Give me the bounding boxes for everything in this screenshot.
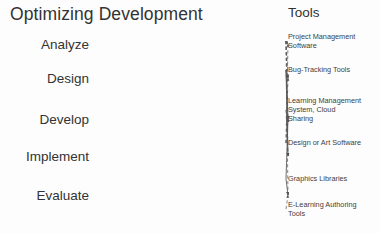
tool-label-line: Software (288, 41, 380, 50)
tool-label-line: System, Cloud (288, 105, 380, 114)
tool-label-line: E-Learning Authoring (288, 200, 380, 209)
tool-label-line: Design or Art Software (288, 138, 380, 147)
page-title: Optimizing Development (10, 4, 203, 25)
tool-label-learning-management-system: Learning ManagementSystem, CloudSharing (288, 96, 380, 124)
tool-label-line: Graphics Libraries (288, 174, 380, 183)
link-design-or-art-software-to-analyze (286, 44, 288, 143)
tools-column-header: Tools (288, 5, 320, 20)
link-graphics-libraries-to-develop (286, 119, 288, 179)
tool-label-project-management-software: Project ManagementSoftware (288, 32, 380, 50)
tool-label-line: Learning Management (288, 96, 380, 105)
phase-label-evaluate: Evaluate (36, 188, 89, 203)
optimizing-development-diagram: Optimizing Development Tools AnalyzeDesi… (0, 0, 380, 233)
tool-label-line: Project Management (288, 32, 380, 41)
phase-label-implement: Implement (26, 149, 89, 164)
phase-label-develop: Develop (39, 112, 89, 127)
tool-label-line: Tools (288, 209, 380, 218)
tool-label-e-learning-authoring-tools: E-Learning AuthoringTools (288, 200, 380, 218)
tool-label-line: Sharing (288, 115, 380, 124)
phase-label-analyze: Analyze (41, 37, 89, 52)
phase-label-design: Design (47, 71, 89, 86)
tool-label-design-or-art-software: Design or Art Software (288, 138, 380, 147)
tool-label-bug-tracking-tools: Bug-Tracking Tools (288, 65, 380, 74)
tool-label-graphics-libraries: Graphics Libraries (288, 174, 380, 183)
tool-label-line: Bug-Tracking Tools (288, 65, 380, 74)
